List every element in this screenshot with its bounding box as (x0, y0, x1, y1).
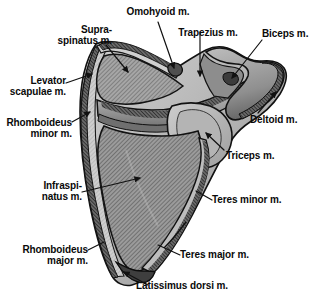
label-teres-major: Teres major m. (180, 249, 280, 260)
label-trapezius-line1: Trapezius m. (168, 27, 248, 38)
label-deltoid-line1: Deltoid m. (250, 114, 322, 125)
label-rhomboideus-major: Rhomboideus major m. (2, 244, 88, 266)
label-supraspinatus: Supra- spinatus m. (20, 24, 112, 46)
label-rhomb-major-line1: Rhomboideus (2, 244, 88, 255)
label-teres-major-line1: Teres major m. (180, 249, 280, 260)
label-supraspinatus-line1: Supra- (20, 24, 112, 35)
label-triceps: Triceps m. (226, 150, 296, 161)
label-rhomboideus-minor: Rhomboideus minor m. (0, 117, 72, 139)
label-teres-minor-line1: Teres minor m. (212, 194, 312, 205)
label-biceps-line1: Biceps m. (262, 28, 324, 39)
label-omohyoid-line1: Omohyoid m. (108, 6, 208, 17)
anatomy-figure-root: Omohyoid m. Trapezius m. Biceps m. Supra… (0, 0, 324, 302)
label-triceps-line1: Triceps m. (226, 150, 296, 161)
label-supraspinatus-line2: spinatus m. (20, 35, 112, 46)
label-rhomb-minor-line1: Rhomboideus (0, 117, 72, 128)
suprascapular-notch (168, 63, 183, 76)
label-infraspinatus-line2: natus m. (4, 191, 82, 202)
label-omohyoid: Omohyoid m. (108, 6, 208, 17)
label-latissimus-line1: Latissimus dorsi m. (136, 280, 266, 291)
label-teres-minor: Teres minor m. (212, 194, 312, 205)
label-infraspinatus: Infraspi- natus m. (4, 180, 82, 202)
label-rhomb-minor-line2: minor m. (0, 128, 72, 139)
label-levator-line1: Levator (0, 75, 66, 86)
label-infraspinatus-line1: Infraspi- (4, 180, 82, 191)
label-deltoid: Deltoid m. (250, 114, 322, 125)
label-latissimus-dorsi: Latissimus dorsi m. (136, 280, 266, 291)
label-levator-scapulae: Levator scapulae m. (0, 75, 66, 97)
label-levator-line2: scapulae m. (0, 86, 66, 97)
label-trapezius: Trapezius m. (168, 27, 248, 38)
label-biceps: Biceps m. (262, 28, 324, 39)
label-rhomb-major-line2: major m. (2, 255, 88, 266)
